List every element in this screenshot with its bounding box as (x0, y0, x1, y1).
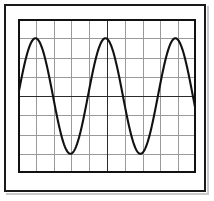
oscilloscope-figure (0, 0, 214, 201)
graticule-plot-area (18, 19, 196, 173)
waveform-plot (18, 19, 196, 173)
